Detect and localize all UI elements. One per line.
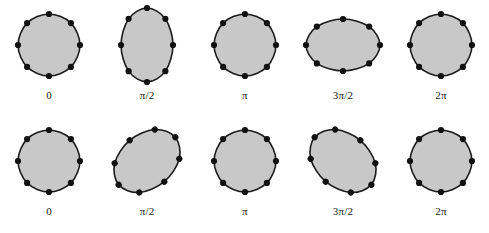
vertex-marker-dot	[469, 158, 475, 164]
vertex-marker-dot	[340, 68, 346, 74]
deformed-circle-shape	[392, 118, 489, 204]
vertex-marker-dot	[24, 136, 30, 142]
vertex-marker-dot	[15, 158, 21, 164]
vertex-marker-dot	[77, 42, 83, 48]
vertex-marker-dot	[46, 127, 52, 133]
vertex-marker-dot	[460, 180, 466, 186]
vertex-marker-dot	[46, 189, 52, 195]
vertex-marker-dot	[416, 136, 422, 142]
vertex-marker-dot	[377, 42, 383, 48]
vertex-marker-dot	[46, 11, 52, 17]
deformed-circle-shape	[392, 2, 489, 88]
phase-label: 3π/2	[294, 204, 392, 218]
vertex-marker-dot	[162, 16, 168, 22]
vertex-marker-dot	[460, 64, 466, 70]
vertex-marker-dot	[220, 20, 226, 26]
phase-label: 2π	[392, 88, 489, 102]
vertex-marker-dot	[438, 189, 444, 195]
mode-row-shear: 0π/2π3π/22π	[0, 116, 489, 232]
deformed-circle-shape	[0, 2, 98, 88]
vertex-marker-dot	[469, 42, 475, 48]
phase-label: 2π	[392, 204, 489, 218]
vertex-marker-dot	[407, 158, 413, 164]
vertex-marker-dot	[211, 42, 217, 48]
vertex-marker-dot	[264, 180, 270, 186]
vertex-marker-dot	[314, 60, 320, 66]
vertex-marker-dot	[366, 60, 372, 66]
vertex-marker-dot	[303, 42, 309, 48]
vertex-marker-dot	[416, 20, 422, 26]
phase-label: π	[196, 204, 294, 218]
vertex-marker-dot	[314, 24, 320, 30]
vertex-marker-dot	[407, 42, 413, 48]
deformed-circle-shape	[0, 118, 98, 204]
mode-cell: π/2	[98, 116, 196, 232]
vertex-marker-dot	[15, 42, 21, 48]
deformed-circle-shape	[98, 118, 196, 204]
vertex-marker-dot	[366, 24, 372, 30]
vertex-marker-dot	[242, 127, 248, 133]
vertex-marker-dot	[68, 180, 74, 186]
deformed-circle-shape	[98, 2, 196, 88]
figure-root: 0π/2π3π/22π 0π/2π3π/22π	[0, 0, 489, 233]
mode-cell: π/2	[98, 0, 196, 116]
mode-cell: π	[196, 0, 294, 116]
vertex-marker-dot	[460, 20, 466, 26]
vertex-marker-dot	[220, 180, 226, 186]
vertex-marker-dot	[118, 42, 124, 48]
vertex-marker-dot	[438, 127, 444, 133]
mode-row-breathing: 0π/2π3π/22π	[0, 0, 489, 116]
vertex-marker-dot	[24, 20, 30, 26]
vertex-marker-dot	[460, 136, 466, 142]
vertex-marker-dot	[340, 16, 346, 22]
vertex-marker-dot	[68, 64, 74, 70]
vertex-marker-dot	[416, 180, 422, 186]
vertex-marker-dot	[242, 189, 248, 195]
deformed-circle-shape	[196, 2, 294, 88]
mode-cell: 0	[0, 0, 98, 116]
vertex-marker-dot	[264, 136, 270, 142]
vertex-marker-dot	[126, 68, 132, 74]
mode-cell: 2π	[392, 116, 489, 232]
vertex-marker-dot	[220, 64, 226, 70]
vertex-marker-dot	[242, 73, 248, 79]
vertex-marker-dot	[144, 5, 150, 11]
vertex-marker-dot	[77, 158, 83, 164]
vertex-marker-dot	[273, 158, 279, 164]
mode-cell: 2π	[392, 0, 489, 116]
vertex-marker-dot	[46, 73, 52, 79]
vertex-marker-dot	[264, 64, 270, 70]
deformed-circle-shape	[294, 118, 392, 204]
vertex-marker-dot	[416, 64, 422, 70]
vertex-marker-dot	[68, 136, 74, 142]
vertex-marker-dot	[24, 64, 30, 70]
vertex-marker-dot	[126, 16, 132, 22]
mode-cell: 3π/2	[294, 116, 392, 232]
mode-cell: 3π/2	[294, 0, 392, 116]
vertex-marker-dot	[162, 68, 168, 74]
phase-label: 0	[0, 88, 98, 102]
deformed-circle-shape	[196, 118, 294, 204]
phase-label: 3π/2	[294, 88, 392, 102]
vertex-marker-dot	[144, 79, 150, 85]
mode-cell: π	[196, 116, 294, 232]
vertex-marker-dot	[24, 180, 30, 186]
mode-cell: 0	[0, 116, 98, 232]
phase-label: π/2	[98, 204, 196, 218]
deformed-circle-shape	[294, 2, 392, 88]
vertex-marker-dot	[220, 136, 226, 142]
phase-label: 0	[0, 204, 98, 218]
vertex-marker-dot	[170, 42, 176, 48]
vertex-marker-dot	[438, 11, 444, 17]
phase-label: π	[196, 88, 294, 102]
vertex-marker-dot	[211, 158, 217, 164]
vertex-marker-dot	[273, 42, 279, 48]
vertex-marker-dot	[68, 20, 74, 26]
vertex-marker-dot	[264, 20, 270, 26]
vertex-marker-dot	[242, 11, 248, 17]
phase-label: π/2	[98, 88, 196, 102]
vertex-marker-dot	[438, 73, 444, 79]
